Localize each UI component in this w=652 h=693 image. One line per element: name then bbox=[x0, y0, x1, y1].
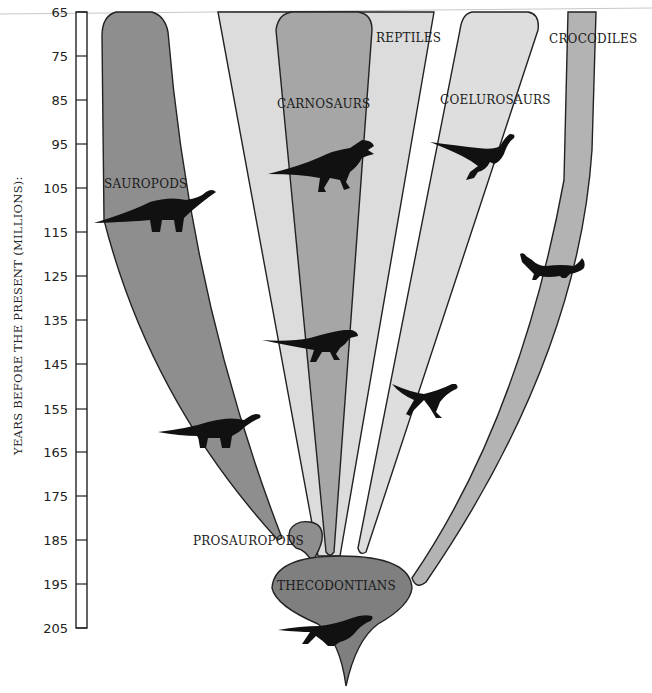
tick-label: 95 bbox=[51, 137, 68, 152]
tick-label: 85 bbox=[51, 93, 68, 108]
label-prosauropods: PROSAUROPODS bbox=[193, 534, 304, 548]
tick-label: 145 bbox=[43, 357, 68, 372]
tick-label: 65 bbox=[51, 5, 68, 20]
label-sauropods: SAUROPODS bbox=[104, 177, 187, 191]
time-axis: 65 75 85 95 105 115 125 135 145 155 165 … bbox=[11, 5, 87, 636]
tick-label: 125 bbox=[43, 269, 68, 284]
thecodontians-root bbox=[272, 556, 412, 686]
axis-title: YEARS BEFORE THE PRESENT (MILLIONS): bbox=[11, 176, 25, 456]
tick-label: 195 bbox=[43, 577, 68, 592]
tick-label: 75 bbox=[51, 49, 68, 64]
label-reptiles: REPTILES bbox=[376, 31, 441, 45]
tick-label: 135 bbox=[43, 313, 68, 328]
label-coelurosaurs: COELUROSAURS bbox=[440, 93, 551, 107]
label-crocodiles: CROCODILES bbox=[549, 32, 637, 46]
tick-label: 105 bbox=[43, 181, 68, 196]
tick-label: 185 bbox=[43, 533, 68, 548]
tick-label: 115 bbox=[43, 225, 68, 240]
label-thecodontians: THECODONTIANS bbox=[277, 579, 396, 593]
axis-tick-labels: 65 75 85 95 105 115 125 135 145 155 165 … bbox=[43, 5, 68, 636]
tick-label: 155 bbox=[43, 402, 68, 417]
tick-label: 175 bbox=[43, 489, 68, 504]
label-carnosaurs: CARNOSAURS bbox=[277, 97, 370, 111]
tick-label: 165 bbox=[43, 445, 68, 460]
tick-label: 205 bbox=[43, 621, 68, 636]
reptile-evolution-diagram: 65 75 85 95 105 115 125 135 145 155 165 … bbox=[0, 0, 652, 693]
